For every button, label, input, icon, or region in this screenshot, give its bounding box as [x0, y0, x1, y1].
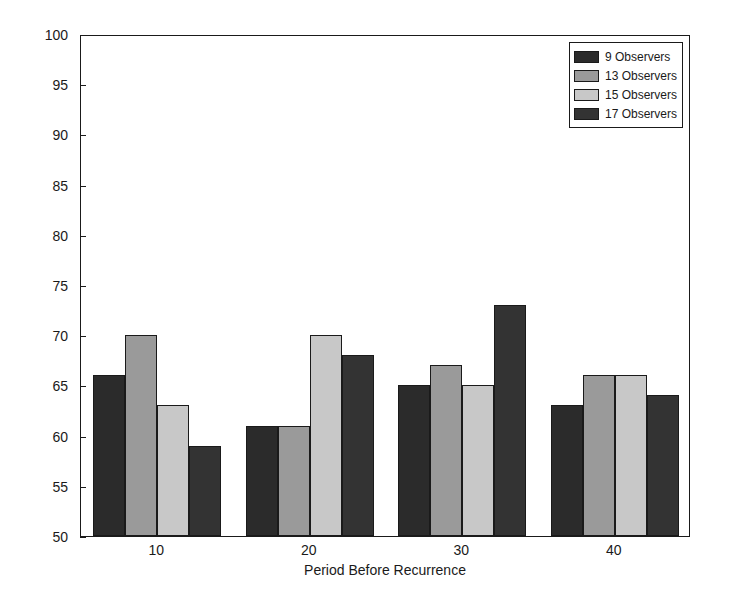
legend-swatch-icon — [574, 108, 599, 120]
x-axis-tick-label: 30 — [431, 542, 491, 558]
y-axis-tick-label: 95 — [52, 76, 68, 94]
y-axis-tick-mark — [80, 186, 86, 187]
legend-entry: 15 Observers — [574, 85, 677, 104]
legend-entry: 17 Observers — [574, 104, 677, 123]
y-axis-tick-label: 80 — [52, 227, 68, 245]
y-axis-tick-label: 90 — [52, 126, 68, 144]
y-axis-tick-mark — [80, 85, 86, 86]
y-axis-tick-label: 50 — [52, 528, 68, 546]
x-axis-tick-label: 20 — [279, 542, 339, 558]
y-axis-tick-label: 55 — [52, 478, 68, 496]
y-axis-tick-mark — [80, 336, 86, 337]
y-axis-tick-label: 85 — [52, 177, 68, 195]
y-axis-tick-label: 60 — [52, 428, 68, 446]
legend-entry: 13 Observers — [574, 66, 677, 85]
bar — [125, 335, 157, 536]
bar — [310, 335, 342, 536]
legend-entry-label: 15 Observers — [605, 88, 677, 102]
legend-swatch-icon — [574, 89, 599, 101]
y-axis-tick-mark — [80, 537, 86, 538]
bar — [647, 395, 679, 536]
bar — [430, 365, 462, 536]
y-axis-label: % Success — [0, 215, 2, 284]
x-axis-tick-mark — [614, 531, 615, 537]
x-axis-tick-mark — [309, 531, 310, 537]
y-axis-tick-mark — [80, 236, 86, 237]
y-axis-tick-mark — [80, 286, 86, 287]
bar — [398, 385, 430, 536]
x-axis-tick-label: 10 — [126, 542, 186, 558]
bar — [93, 375, 125, 536]
y-axis-tick-label: 100 — [45, 26, 68, 44]
bar — [246, 426, 278, 536]
legend-entry-label: 9 Observers — [605, 50, 670, 64]
y-axis-tick-mark — [80, 487, 86, 488]
y-axis-tick-mark — [80, 386, 86, 387]
x-axis-tick-label: 40 — [584, 542, 644, 558]
bar — [278, 426, 310, 536]
legend-swatch-icon — [574, 51, 599, 63]
y-axis-tick-mark — [80, 35, 86, 36]
y-axis-tick-mark — [80, 437, 86, 438]
legend-swatch-icon — [574, 70, 599, 82]
chart-legend: 9 Observers13 Observers15 Observers17 Ob… — [569, 42, 683, 128]
y-axis-tick-label: 70 — [52, 327, 68, 345]
bar — [494, 305, 526, 536]
x-axis-tick-mark — [461, 531, 462, 537]
x-axis-label: Period Before Recurrence — [80, 562, 690, 578]
bar — [189, 446, 221, 536]
bar — [462, 385, 494, 536]
legend-entry: 9 Observers — [574, 47, 677, 66]
y-axis-tick-label: 65 — [52, 377, 68, 395]
bar — [157, 405, 189, 536]
x-axis-tick-mark — [156, 531, 157, 537]
bar — [342, 355, 374, 536]
y-axis-tick-mark — [80, 135, 86, 136]
bar — [615, 375, 647, 536]
bar — [551, 405, 583, 536]
bar — [583, 375, 615, 536]
legend-entry-label: 13 Observers — [605, 69, 677, 83]
legend-entry-label: 17 Observers — [605, 107, 677, 121]
figure-canvas: 50556065707580859095100 % Success 102030… — [0, 0, 729, 610]
y-axis-tick-label: 75 — [52, 277, 68, 295]
